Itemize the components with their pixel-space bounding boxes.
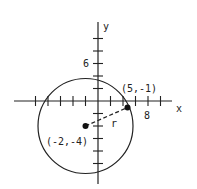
y-tick-label-6: 6 xyxy=(83,58,89,69)
center-point xyxy=(83,123,89,129)
radius-line xyxy=(86,108,128,127)
x-axis-label: x xyxy=(176,103,182,114)
coordinate-diagram: y x 6 8 (5,-1) (-2,-4) r xyxy=(0,0,197,189)
x-tick-label-8: 8 xyxy=(144,110,150,121)
y-axis-label: y xyxy=(103,21,109,32)
radius-label: r xyxy=(111,118,117,129)
center-label: (-2,-4) xyxy=(46,136,88,147)
point-label: (5,-1) xyxy=(121,83,157,94)
point-on-circle xyxy=(125,105,131,111)
